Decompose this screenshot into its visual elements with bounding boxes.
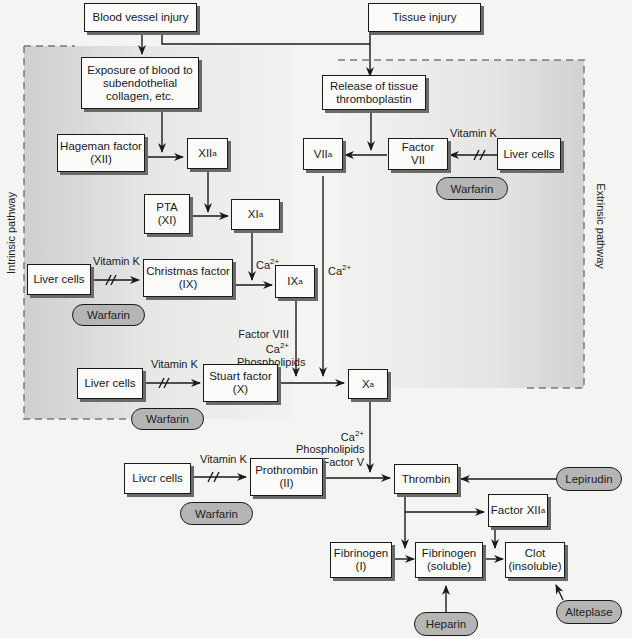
pta-node: PTA (XI) xyxy=(144,194,190,234)
warfarin-drug-4: Warfarin xyxy=(180,502,253,525)
alteplase-drug: Alteplase xyxy=(556,600,622,624)
thrombin-node: Thrombin xyxy=(394,464,458,494)
christmas-factor-node: Christmas factor (IX) xyxy=(143,259,233,297)
liver-cells-node-3: Liver cells xyxy=(77,368,143,399)
blood-vessel-injury-node: Blood vessel injury xyxy=(84,3,197,32)
factor-vii-node: Factor VII xyxy=(388,138,448,170)
fibrinogen-i-node: Fibrinogen (I) xyxy=(330,542,392,578)
vitamin-k-label-1: Vitamin K xyxy=(450,127,497,140)
factor-xiiia-node: Factor XIIa xyxy=(488,494,548,527)
warfarin-drug-1: Warfarin xyxy=(436,177,508,200)
fibrinogen-soluble-node: Fibrinogen (soluble) xyxy=(415,542,483,578)
stuart-factor-node: Stuart factor (X) xyxy=(203,364,278,402)
xiia-node: XIIa xyxy=(187,138,228,169)
clot-node: Clot (insoluble) xyxy=(505,542,565,578)
intrinsic-pathway-label: Intrinsic pathway xyxy=(5,192,17,274)
vitamin-k-label-4: Vitamin K xyxy=(200,453,247,466)
coagulation-diagram: Intrinsic pathway Extrinsic pathway Bloo… xyxy=(0,0,632,638)
lepirudin-drug: Lepirudin xyxy=(556,467,622,491)
hageman-factor-node: Hageman factor (XII) xyxy=(57,134,145,172)
warfarin-drug-2: Warfarin xyxy=(72,304,145,326)
heparin-drug: Heparin xyxy=(414,612,478,636)
ca-label-viia: Ca2+ xyxy=(328,249,351,277)
ixa-cofactors-label: Factor VIIICa2+Phospholipids xyxy=(237,315,289,368)
xa-node: Xa xyxy=(348,369,388,399)
warfarin-drug-3: Warfarin xyxy=(131,408,204,430)
ixa-node: IXa xyxy=(275,265,315,298)
liver-cells-node-4: Livcr cells xyxy=(124,463,191,494)
xia-node: XIa xyxy=(231,199,280,230)
liver-cells-node-1: Liver cells xyxy=(497,138,561,170)
vitamin-k-label-3: Vitamin K xyxy=(151,358,198,371)
vitamin-k-label-2: Vitamin K xyxy=(93,255,140,268)
exposure-node: Exposure of blood to subendothelial coll… xyxy=(81,57,199,109)
tissue-injury-node: Tissue injury xyxy=(368,3,481,32)
viia-node: VIIa xyxy=(303,138,343,170)
liver-cells-node-2: Liver cells xyxy=(27,264,91,295)
release-thromboplastin-node: Release of tissue thromboplastin xyxy=(322,75,426,110)
extrinsic-pathway-label: Extrinsic pathway xyxy=(595,183,607,269)
prothrombin-node: Prothrombin (II) xyxy=(250,458,323,496)
